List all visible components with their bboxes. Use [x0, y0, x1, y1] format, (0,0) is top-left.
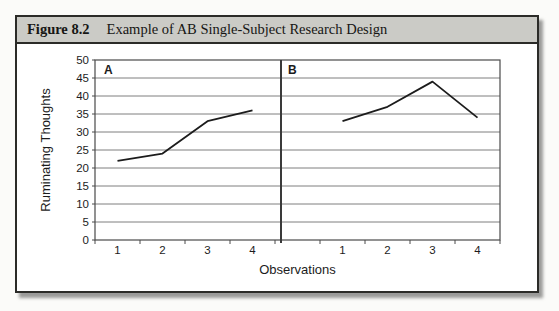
y-axis-title: Ruminating Thoughts [38, 88, 53, 212]
xtick-label-b: 2 [384, 244, 390, 256]
xtick-label-a: 4 [249, 244, 256, 256]
ytick-label: 15 [76, 180, 89, 192]
xtick-label-b: 4 [474, 244, 481, 256]
ytick-label: 5 [83, 216, 89, 228]
gridlines [95, 78, 500, 222]
xtick-label-b: 3 [429, 244, 435, 256]
figure-header: Figure 8.2 Example of AB Single-Subject … [17, 17, 537, 44]
figure-box: Figure 8.2 Example of AB Single-Subject … [15, 15, 539, 293]
ab-chart: A B 50 45 40 35 30 25 20 15 10 5 0 1 2 3… [17, 44, 537, 291]
ytick-label: 0 [83, 234, 89, 246]
xtick-label-a: 3 [204, 244, 210, 256]
xtick-label-a: 1 [114, 244, 120, 256]
ytick-label: 30 [76, 126, 89, 138]
panel-a-label: A [104, 63, 113, 77]
xtick-label-b: 1 [339, 244, 345, 256]
series-a-line [118, 110, 253, 160]
ytick-label: 20 [76, 162, 89, 174]
x-axis-title: Observations [259, 262, 336, 277]
xtick-label-a: 2 [159, 244, 165, 256]
figure-number: Figure 8.2 [27, 21, 90, 38]
ytick-label: 35 [76, 108, 89, 120]
ytick-label: 45 [76, 72, 89, 84]
chart-area: A B 50 45 40 35 30 25 20 15 10 5 0 1 2 3… [17, 44, 537, 291]
ytick-label: 40 [76, 90, 89, 102]
series-lines [118, 82, 478, 161]
ytick-label: 10 [76, 198, 89, 210]
figure-title: Example of AB Single-Subject Research De… [107, 21, 388, 38]
panel-b-label: B [288, 63, 297, 77]
ytick-label: 50 [76, 54, 89, 66]
ytick-label: 25 [76, 144, 89, 156]
series-b-line [343, 82, 478, 122]
